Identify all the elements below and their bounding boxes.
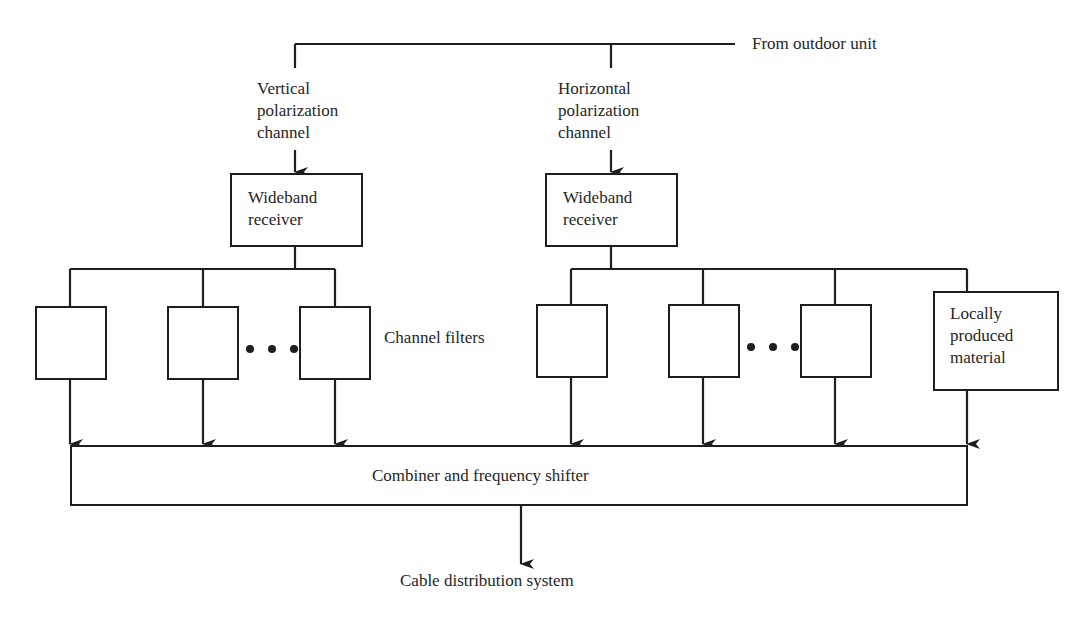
channel-filter-v1 xyxy=(35,306,107,380)
horizontal-channel-label: Horizontal polarization channel xyxy=(558,78,639,144)
vertical-channel-label: Vertical polarization channel xyxy=(257,78,338,144)
channel-filter-h1 xyxy=(536,304,608,378)
input-label: From outdoor unit xyxy=(752,33,877,55)
combiner-frequency-shifter-box: Combiner and frequency shifter xyxy=(70,445,968,506)
channel-filter-v2 xyxy=(167,306,239,380)
channel-filter-h2 xyxy=(668,304,740,378)
ellipsis-dots-left xyxy=(246,338,312,357)
channel-filters-label: Channel filters xyxy=(384,327,485,349)
combiner-label: Combiner and frequency shifter xyxy=(372,465,589,487)
receiver-label: Wideband receiver xyxy=(563,187,632,231)
vertical-wideband-receiver: Wideband receiver xyxy=(230,173,363,247)
horizontal-wideband-receiver: Wideband receiver xyxy=(545,173,678,247)
locally-produced-material-box: Locally produced material xyxy=(933,291,1059,391)
ellipsis-dots-right xyxy=(747,336,813,355)
output-label: Cable distribution system xyxy=(400,570,574,592)
local-source-label: Locally produced material xyxy=(950,303,1013,369)
receiver-label: Wideband receiver xyxy=(248,187,317,231)
